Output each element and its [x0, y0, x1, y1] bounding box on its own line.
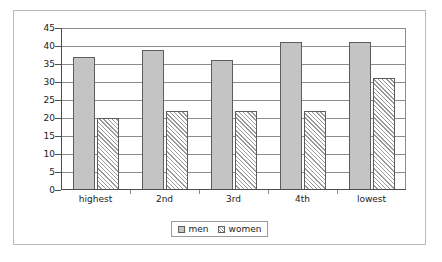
bar-women-4th — [304, 111, 326, 190]
y-axis-tick-label: 15 — [44, 132, 55, 141]
x-axis-tick-label: highest — [79, 194, 112, 205]
bar-men-2nd — [142, 50, 164, 190]
x-axis-labels: highest2nd3rd4thlowest — [61, 194, 406, 210]
legend-item-men[interactable]: men — [178, 224, 209, 234]
legend-item-women[interactable]: women — [218, 224, 262, 234]
y-axis-tick-label: 30 — [44, 78, 55, 87]
y-axis-line — [61, 28, 62, 190]
bar-men-lowest — [349, 42, 371, 190]
bar-group — [211, 28, 257, 190]
bar-group — [142, 28, 188, 190]
y-axis-tick-label: 40 — [44, 42, 55, 51]
bar-women-highest — [97, 118, 119, 190]
bar-women-3rd — [235, 111, 257, 190]
y-axis-tick-label: 10 — [44, 150, 55, 159]
bar-women-lowest — [373, 78, 395, 190]
plot-area — [61, 28, 406, 190]
legend-swatch-men-icon — [178, 226, 185, 233]
bar-group — [349, 28, 395, 190]
x-axis-tick-label: 4th — [295, 194, 310, 205]
legend-label: women — [229, 224, 262, 234]
y-axis-tick-label: 45 — [44, 24, 55, 33]
chart-frame: 051015202530354045 highest2nd3rd4thlowes… — [13, 10, 426, 245]
x-axis-tick-label: 2nd — [156, 194, 173, 205]
y-axis-tick-label: 35 — [44, 60, 55, 69]
bar-group — [280, 28, 326, 190]
legend-label: men — [189, 224, 209, 234]
legend-swatch-women-icon — [218, 226, 225, 233]
x-axis-tick-label: lowest — [357, 194, 386, 205]
bar-group — [73, 28, 119, 190]
chart-legend: menwomen — [171, 221, 269, 237]
bar-women-2nd — [166, 111, 188, 190]
bar-men-highest — [73, 57, 95, 190]
y-axis-labels: 051015202530354045 — [31, 28, 55, 190]
y-axis-tick-label: 20 — [44, 114, 55, 123]
bar-men-3rd — [211, 60, 233, 190]
bar-men-4th — [280, 42, 302, 190]
x-axis-tick-label: 3rd — [226, 194, 241, 205]
y-axis-tick-label: 25 — [44, 96, 55, 105]
